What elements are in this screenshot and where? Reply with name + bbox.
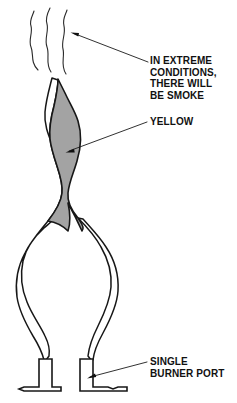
- callout-leader-lines: [69, 34, 148, 378]
- smoke-wisps-icon: [30, 8, 67, 74]
- burner-port-left-shape: [19, 359, 61, 391]
- smoke-wisp-right: [63, 10, 67, 74]
- arrowhead-smoke-icon: [71, 33, 80, 37]
- burner-port-right: [80, 359, 127, 391]
- flame-diagram: IN EXTREME CONDITIONS, THERE WILL BE SMO…: [0, 0, 237, 403]
- callout-label-smoke: IN EXTREME CONDITIONS, THERE WILL BE SMO…: [150, 55, 217, 101]
- callout-line-smoke: [74, 34, 148, 63]
- outer-flame-right-edge: [78, 218, 118, 360]
- callout-label-smoke-line-2: CONDITIONS,: [150, 67, 217, 79]
- smoke-wisp-middle: [46, 8, 51, 72]
- smoke-wisp-left: [30, 11, 38, 70]
- burner-port-left: [19, 359, 61, 391]
- callout-label-burner: SINGLE BURNER PORT: [150, 356, 224, 379]
- callout-label-smoke-line-3: THERE WILL: [150, 78, 217, 90]
- callout-label-smoke-line-1: IN EXTREME: [150, 55, 217, 67]
- callout-label-yellow-line-1: YELLOW: [150, 116, 193, 128]
- callout-line-burner: [90, 362, 147, 377]
- callout-label-smoke-line-4: BE SMOKE: [150, 90, 217, 102]
- callout-label-burner-line-1: SINGLE: [150, 356, 224, 368]
- callout-label-burner-line-2: BURNER PORT: [150, 368, 224, 380]
- callout-label-yellow: YELLOW: [150, 116, 193, 128]
- burner-port-right-shape: [80, 359, 127, 391]
